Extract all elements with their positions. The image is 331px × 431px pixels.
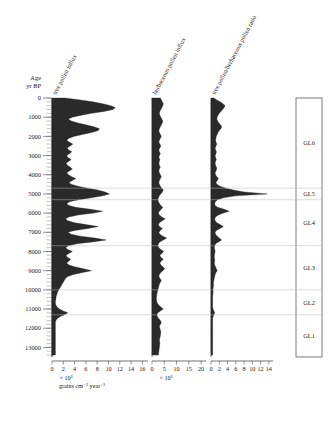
age-axis-tick-label: 6000 xyxy=(28,209,41,216)
age-axis-tick-label: 9000 xyxy=(28,267,41,274)
panel-title-2: herbaceous pollen influx xyxy=(151,36,187,96)
x-axis-tick-label-3: 14 xyxy=(266,365,272,372)
x-axis-tick-label-1: 12 xyxy=(117,365,123,372)
zone-label-gl4: GL4 xyxy=(303,219,316,226)
age-axis-tick-label: 12000 xyxy=(25,324,41,331)
curve-panel-3 xyxy=(211,98,267,355)
age-axis-tick-label: 8000 xyxy=(28,248,41,255)
age-axis-tick-label: 3000 xyxy=(28,152,41,159)
age-axis-tick-label: 7000 xyxy=(28,228,41,235)
age-axis-tick-label: 5000 xyxy=(28,190,41,197)
pollen-diagram-svg: 0100020003000400050006000700080009000100… xyxy=(0,0,331,431)
x-axis-tick-label-3: 10 xyxy=(249,365,255,372)
curve-panel-2 xyxy=(152,98,167,355)
x-axis-tick-label-3: 4 xyxy=(226,365,229,372)
x-axis-tick-label-1: 2 xyxy=(62,365,65,372)
x-axis-tick-label-1: 16 xyxy=(139,365,145,372)
x-axis-tick-label-2: 0 xyxy=(150,365,153,372)
x-axis-tick-label-1: 0 xyxy=(50,365,53,372)
age-axis-tick-label: 1000 xyxy=(28,113,41,120)
x-axis-unit-label: grains cm⁻² year⁻¹ xyxy=(59,382,105,389)
x-axis-tick-label-2: 20 xyxy=(198,365,204,372)
age-axis-tick-label: 2000 xyxy=(28,133,41,140)
age-axis-title-line2: yr BP xyxy=(26,82,41,89)
panel-title-3: tree pollen/herbaceous pollen ratio xyxy=(210,14,258,95)
x-axis-tick-label-1: 8 xyxy=(96,365,99,372)
zone-label-gl3: GL3 xyxy=(303,264,315,271)
x-axis-tick-label-1: 10 xyxy=(105,365,111,372)
age-axis-tick-label: 4000 xyxy=(28,171,41,178)
x-axis-tick-label-2: 15 xyxy=(186,365,192,372)
age-axis-tick-label: 11000 xyxy=(25,305,41,312)
x-axis-tick-label-3: 2 xyxy=(218,365,221,372)
x-axis-unit-exponent-2: × 10³ xyxy=(159,374,172,381)
x-axis-tick-label-3: 8 xyxy=(243,365,246,372)
x-axis-tick-label-2: 10 xyxy=(173,365,179,372)
pollen-influx-figure: 0100020003000400050006000700080009000100… xyxy=(0,0,331,431)
age-axis-tick-label: 10000 xyxy=(25,286,41,293)
x-axis-tick-label-2: 5 xyxy=(163,365,166,372)
zone-label-gl1: GL1 xyxy=(303,332,315,339)
zone-label-gl2: GL2 xyxy=(303,299,315,306)
x-axis-tick-label-3: 12 xyxy=(258,365,264,372)
panel-title-1: tree pollen influx xyxy=(51,53,78,96)
curve-panel-1 xyxy=(52,98,115,355)
age-axis-title-line1: Age xyxy=(30,74,41,81)
zone-column-frame xyxy=(296,98,322,357)
x-axis-tick-label-1: 14 xyxy=(128,365,134,372)
x-axis-unit-exponent-1: × 10³ xyxy=(59,374,72,381)
x-axis-tick-label-3: 6 xyxy=(234,365,237,372)
age-axis-tick-label: 13000 xyxy=(25,344,41,351)
x-axis-tick-label-1: 4 xyxy=(73,365,76,372)
zone-label-gl6: GL6 xyxy=(303,139,315,146)
age-axis-tick-label: 0 xyxy=(38,94,41,101)
x-axis-tick-label-3: 0 xyxy=(209,365,212,372)
x-axis-tick-label-1: 6 xyxy=(84,365,87,372)
zone-label-gl5: GL5 xyxy=(303,190,315,197)
